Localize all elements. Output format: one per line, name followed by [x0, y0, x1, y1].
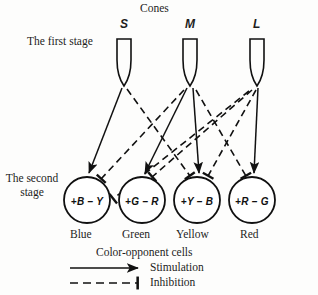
stim-l-to-red: [254, 88, 258, 173]
s-cone-shape: [117, 39, 131, 86]
second-stage-label-line2: stage: [2, 186, 62, 198]
inhib-l-to-yellow: [208, 90, 256, 176]
color-label-blue: Blue: [70, 228, 92, 240]
second-stage-label-line1: The second: [2, 172, 62, 184]
cones-title: Cones: [140, 2, 169, 14]
cell-formula-yellow: +Y – B: [181, 196, 213, 207]
color-label-red: Red: [240, 228, 259, 240]
cone-label-m: M: [185, 18, 195, 31]
first-stage-label: The first stage: [27, 35, 93, 47]
cone-shapes: [117, 39, 264, 86]
inhib-l-to-green: [152, 90, 252, 177]
inhib-m-to-red: [196, 90, 246, 176]
l-cone-shape: [250, 39, 264, 86]
inhib-m-to-blue: [101, 90, 184, 179]
stim-m-to-green: [145, 88, 187, 173]
color-label-yellow: Yellow: [176, 228, 209, 240]
cell-formula-green: +G – R: [125, 196, 159, 207]
legend-label-stimulation: Stimulation: [150, 261, 204, 273]
figure-root: Cones S M L The first stage The second s…: [0, 0, 318, 295]
cone-label-l: L: [253, 18, 260, 31]
cone-label-s: S: [120, 18, 128, 31]
color-label-green: Green: [122, 228, 150, 240]
cell-formula-blue: +B – Y: [71, 196, 103, 207]
stim-s-to-blue: [89, 88, 122, 173]
legend-glyphs: [70, 268, 138, 283]
m-cone-shape: [183, 39, 197, 86]
color-opponent-cells-label: Color-opponent cells: [96, 246, 193, 258]
legend-label-inhibition: Inhibition: [150, 276, 195, 288]
cell-formula-red: +R – G: [235, 196, 269, 207]
